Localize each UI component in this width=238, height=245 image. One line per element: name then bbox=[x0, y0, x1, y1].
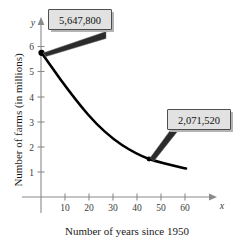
x-tick-label-60: 60 bbox=[180, 203, 190, 213]
x-tick-label-20: 20 bbox=[84, 203, 94, 213]
x-tick-group: 10 20 30 40 50 60 bbox=[60, 194, 190, 214]
x-tick-label-50: 50 bbox=[156, 203, 166, 213]
y-tick-label-4: 4 bbox=[29, 93, 34, 103]
farms-decay-chart: 10 20 30 40 50 60 1 2 3 4 5 6 y x bbox=[0, 0, 238, 245]
y-axis-title: Number of farms (in millions) bbox=[12, 53, 25, 187]
y-tick-label-2: 2 bbox=[29, 143, 34, 153]
x-tick-label-40: 40 bbox=[132, 203, 142, 213]
y-tick-label-3: 3 bbox=[29, 118, 34, 128]
y-tick-label-5: 5 bbox=[29, 67, 34, 77]
callout-first-value: 5,647,800 bbox=[43, 10, 114, 57]
y-tick-label-1: 1 bbox=[29, 168, 34, 178]
chart-canvas: 10 20 30 40 50 60 1 2 3 4 5 6 y x bbox=[0, 0, 238, 245]
callout-second-label: 2,071,520 bbox=[178, 115, 220, 126]
callout-first-leader bbox=[43, 32, 106, 57]
y-tick-group: 1 2 3 4 5 6 bbox=[29, 42, 44, 178]
x-tick-label-30: 30 bbox=[108, 203, 118, 213]
x-axis-variable-label: x bbox=[219, 200, 225, 211]
y-tick-label-6: 6 bbox=[29, 42, 34, 52]
y-axis-arrowhead bbox=[38, 17, 45, 25]
x-axis-arrowhead bbox=[209, 194, 217, 201]
decay-curve bbox=[42, 53, 187, 169]
callout-second-value: 2,071,520 bbox=[150, 110, 233, 162]
callout-first-label: 5,647,800 bbox=[59, 15, 101, 26]
callout-second-leader bbox=[150, 128, 177, 161]
x-tick-label-10: 10 bbox=[60, 203, 70, 213]
y-axis-variable-label: y bbox=[30, 17, 36, 28]
x-axis-title: Number of years since 1950 bbox=[65, 225, 190, 237]
